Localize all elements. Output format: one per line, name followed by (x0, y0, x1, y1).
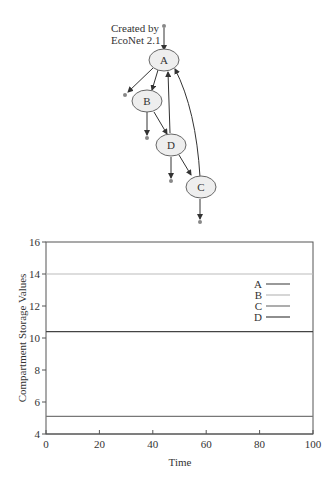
output-dot-A (123, 93, 127, 97)
node-B: B (132, 90, 162, 112)
x-tick-label: 40 (147, 438, 159, 450)
x-tick-label: 0 (43, 438, 49, 450)
edge-A-B (152, 70, 158, 90)
node-D: D (156, 134, 186, 156)
x-axis-label: Time (169, 456, 192, 468)
y-tick-label: 6 (35, 396, 41, 408)
legend: ABCD (254, 278, 290, 323)
legend-label-C: C (255, 300, 262, 312)
x-tick-label: 100 (305, 438, 322, 450)
node-A-label: A (160, 54, 168, 66)
network-diagram: Created by EcoNet 2.1 A B D C (0, 0, 331, 230)
output-dot-D (169, 179, 173, 183)
x-tick-label: 80 (254, 438, 266, 450)
y-tick-label: 14 (29, 268, 41, 280)
y-tick-label: 16 (29, 236, 41, 248)
edge-A-output (128, 68, 153, 92)
output-dot-C (198, 220, 202, 224)
edge-B-D (154, 112, 167, 134)
y-tick-label: 12 (29, 300, 40, 312)
node-D-label: D (167, 139, 175, 151)
y-tick-label: 8 (35, 364, 41, 376)
node-C-label: C (197, 181, 204, 193)
edge-D-C (179, 155, 191, 175)
credit-line-2: EcoNet 2.1 (111, 34, 160, 46)
legend-label-A: A (254, 278, 262, 290)
node-B-label: B (143, 95, 150, 107)
y-tick-label: 10 (29, 332, 41, 344)
y-tick-label: 4 (35, 428, 41, 440)
x-tick-label: 20 (94, 438, 106, 450)
edge-C-A (175, 69, 200, 177)
output-dot-B (145, 136, 149, 140)
legend-label-D: D (254, 311, 262, 323)
legend-label-B: B (255, 289, 262, 301)
node-A: A (149, 49, 179, 71)
plot-frame (46, 242, 313, 434)
y-axis-label: Compartment Storage Values (16, 274, 28, 403)
x-tick-label: 60 (201, 438, 213, 450)
credit-line-1: Created by (111, 22, 159, 34)
node-C: C (186, 176, 216, 198)
input-source-dot (162, 24, 166, 28)
edge-D-A (168, 72, 170, 133)
